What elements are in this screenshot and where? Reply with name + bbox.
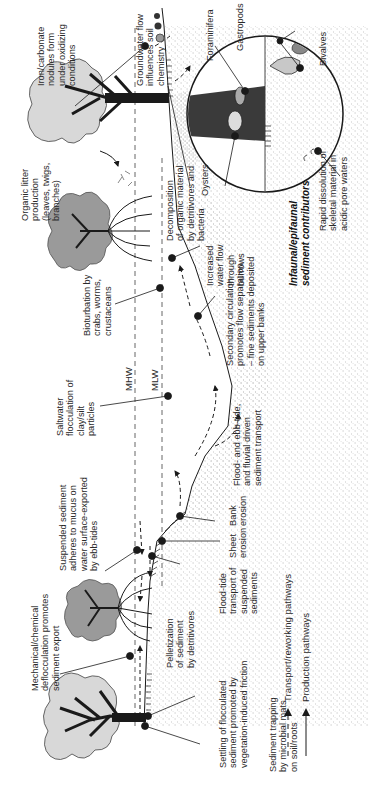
solid-arrow-icon <box>302 708 310 756</box>
label-pelletization: Pelletization of sediment by detritivore… <box>165 611 196 668</box>
label-foraminifera: Foraminifera <box>205 9 215 61</box>
label-flood-ebb-fluvial: Flood- and ebb-tide, and fluvial driven … <box>232 404 263 486</box>
litter-arrow <box>100 151 118 166</box>
label-rapid-dissolution: Rapid dissolution of skeletal material i… <box>318 151 349 231</box>
label-suspended-mucus: Suspended sediment adheres to mucus on w… <box>58 477 100 571</box>
legend-transport: Transport/reworking pathways <box>282 574 293 756</box>
label-bioturbation: Bioturbation by crabs, worms, crustacean… <box>82 275 113 336</box>
mhw-label: MHW <box>123 367 134 391</box>
label-groundwater: Groundwater flow influences soil chemist… <box>135 14 166 86</box>
label-bivalves: Bivalves <box>318 32 328 66</box>
label-iron-carbonate: Iron/carbonate nodules form under oxidiz… <box>36 24 78 86</box>
label-increased-water-flow: Increased water flow through burrows <box>205 245 247 286</box>
tree-right <box>48 192 152 271</box>
label-mechanical-deflocculation: Mechanical/chemical deflocculation promo… <box>30 594 61 691</box>
dashed-arrow-icon <box>284 708 292 756</box>
tree-middle <box>64 572 152 641</box>
mlw-label: MLW <box>149 370 160 391</box>
legend-production: Production pathways <box>300 613 311 756</box>
label-organic-litter: Organic litter production (leaves, twigs… <box>20 163 62 221</box>
legend-transport-label: Transport/reworking pathways <box>282 574 293 702</box>
label-infaunal-title: Infaunal/epifaunal sediment contributors <box>288 180 311 286</box>
label-bank-erosion: Bank erosion <box>228 496 249 526</box>
label-sheet-erosion: Sheet erosion <box>228 528 249 558</box>
label-gastropods: Gastropods <box>235 4 245 52</box>
label-oysters: Oysters <box>200 164 210 196</box>
legend-production-label: Production pathways <box>300 613 311 702</box>
label-settling-flocculated: Settling of flocculated sediment promote… <box>218 661 249 768</box>
litter-debris <box>118 171 132 186</box>
diagram-canvas: MHW MLW <box>0 0 369 786</box>
label-flood-tide-transport: Flood-tide transport of suspended sedime… <box>218 568 260 614</box>
label-saltwater-flocculation: Saltwater flocculation of clay/silt part… <box>55 380 97 436</box>
